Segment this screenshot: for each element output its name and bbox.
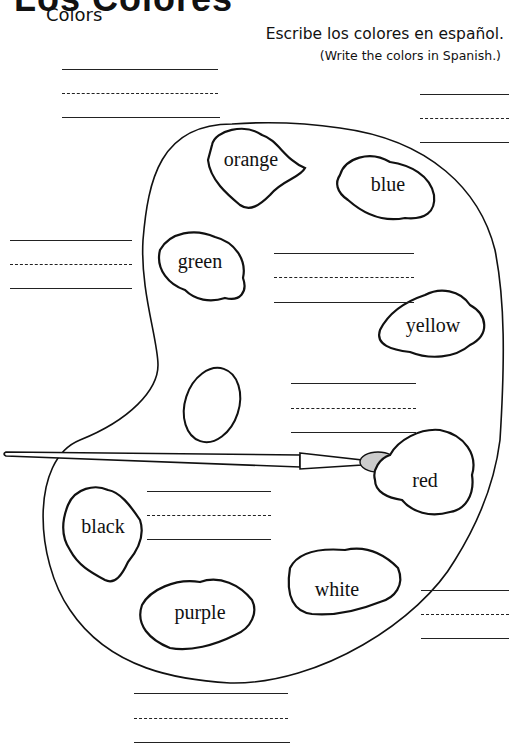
answer-line-dashed[interactable] bbox=[147, 515, 271, 516]
answer-line-bottom[interactable] bbox=[134, 742, 290, 743]
answer-line-bottom[interactable] bbox=[420, 142, 509, 143]
answer-line-dashed[interactable] bbox=[10, 264, 132, 265]
paint-blob-purple: purple bbox=[140, 580, 254, 649]
svg-text:red: red bbox=[412, 469, 438, 491]
svg-text:green: green bbox=[178, 250, 222, 273]
paintbrush-icon bbox=[4, 452, 396, 472]
answer-line-bottom[interactable] bbox=[291, 432, 416, 433]
svg-text:yellow: yellow bbox=[406, 314, 461, 337]
paint-blob-white: white bbox=[289, 549, 401, 615]
answer-line-dashed[interactable] bbox=[421, 614, 509, 615]
palette-illustration: orange blue green yellow red black purpl… bbox=[0, 0, 509, 747]
answer-line-dashed[interactable] bbox=[420, 118, 509, 119]
answer-line-top[interactable] bbox=[420, 94, 509, 95]
paint-blob-red: red bbox=[374, 430, 473, 515]
thumb-hole bbox=[175, 361, 250, 450]
answer-line-bottom[interactable] bbox=[10, 288, 132, 289]
answer-line-top[interactable] bbox=[421, 590, 509, 591]
answer-line-bottom[interactable] bbox=[274, 302, 414, 303]
paint-blob-black: black bbox=[63, 487, 142, 581]
answer-line-bottom[interactable] bbox=[421, 638, 509, 639]
answer-line-dashed[interactable] bbox=[62, 93, 218, 94]
answer-line-top[interactable] bbox=[291, 383, 416, 384]
palette-outline bbox=[43, 123, 503, 683]
answer-line-bottom[interactable] bbox=[62, 117, 220, 118]
answer-line-top[interactable] bbox=[134, 693, 288, 694]
paint-blob-green: green bbox=[159, 232, 244, 300]
svg-text:blue: blue bbox=[371, 173, 406, 195]
answer-line-top[interactable] bbox=[147, 491, 271, 492]
answer-line-dashed[interactable] bbox=[134, 718, 288, 719]
answer-line-top[interactable] bbox=[274, 253, 414, 254]
answer-line-top[interactable] bbox=[10, 240, 132, 241]
paint-blob-yellow: yellow bbox=[379, 291, 484, 357]
answer-line-dashed[interactable] bbox=[274, 277, 414, 278]
svg-text:orange: orange bbox=[224, 148, 279, 171]
answer-line-top[interactable] bbox=[62, 69, 218, 70]
answer-line-dashed[interactable] bbox=[291, 408, 416, 409]
answer-line-bottom[interactable] bbox=[147, 539, 271, 540]
svg-text:black: black bbox=[81, 515, 124, 537]
paint-blob-orange: orange bbox=[208, 129, 305, 208]
svg-text:white: white bbox=[315, 578, 360, 600]
svg-text:purple: purple bbox=[174, 601, 225, 624]
paint-blob-blue: blue bbox=[337, 156, 434, 219]
